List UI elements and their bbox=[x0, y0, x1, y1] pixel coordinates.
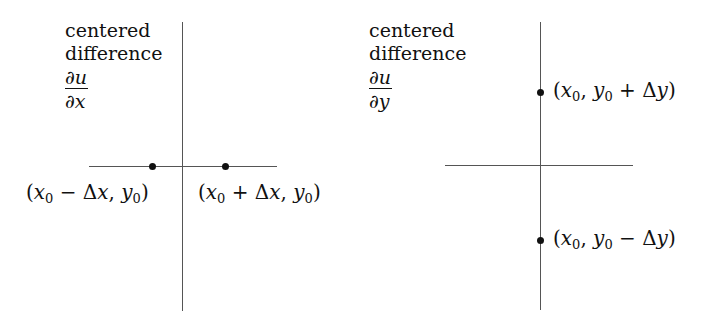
panel-du-dy: centered difference ∂u ∂y (x0, y0 + Δy) … bbox=[0, 0, 713, 324]
paren-close: ) bbox=[668, 78, 676, 102]
fraction-denominator: ∂y bbox=[369, 89, 390, 113]
grid-point-bottom bbox=[537, 237, 544, 244]
comma: , bbox=[580, 226, 593, 250]
var-y: y bbox=[593, 226, 604, 250]
caption-du-dy: centered difference ∂u ∂y bbox=[369, 19, 466, 113]
var-y: y bbox=[657, 78, 668, 102]
var-y: y bbox=[657, 226, 668, 250]
subscript: 0 bbox=[604, 89, 612, 104]
paren-close: ) bbox=[668, 226, 676, 250]
point-label-bottom: (x0, y0 − Δy) bbox=[553, 226, 676, 252]
fraction-numerator: ∂u bbox=[369, 66, 392, 89]
var-x: x bbox=[561, 226, 572, 250]
horizontal-axis bbox=[445, 165, 633, 166]
paren-open: ( bbox=[553, 78, 561, 102]
vertical-axis bbox=[540, 22, 541, 310]
comma: , bbox=[580, 78, 593, 102]
caption-line-2: difference bbox=[369, 42, 466, 65]
caption-line-1: centered bbox=[369, 19, 466, 42]
var-y: y bbox=[593, 78, 604, 102]
paren-open: ( bbox=[553, 226, 561, 250]
point-label-top: (x0, y0 + Δy) bbox=[553, 78, 676, 104]
subscript: 0 bbox=[604, 237, 612, 252]
operator: − Δ bbox=[613, 226, 657, 250]
grid-point-top bbox=[537, 89, 544, 96]
partial-derivative-fraction: ∂u ∂y bbox=[369, 66, 392, 113]
var-x: x bbox=[561, 78, 572, 102]
operator: + Δ bbox=[613, 78, 657, 102]
